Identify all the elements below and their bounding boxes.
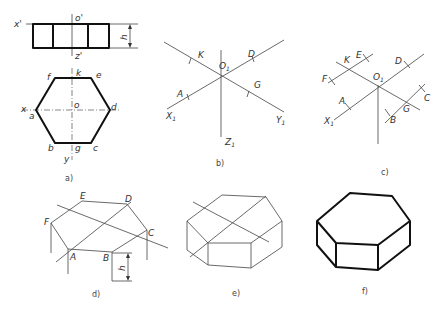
- label-X1: X1: [165, 111, 176, 122]
- label-o-prime: o': [75, 13, 83, 23]
- label-x: x: [20, 104, 27, 114]
- label-h: h: [117, 265, 127, 271]
- label-Y1: Y1: [276, 115, 285, 126]
- label-G: G: [403, 104, 410, 114]
- prism-top-face: [187, 195, 282, 243]
- label-f: f: [47, 72, 52, 82]
- label-F: F: [44, 217, 50, 227]
- label-o: o: [74, 100, 80, 110]
- label-g: g: [75, 143, 81, 153]
- label-D: D: [125, 194, 132, 204]
- label-b: b: [48, 143, 54, 153]
- panel-f: f): [317, 193, 410, 296]
- label-D: D: [395, 56, 402, 66]
- label-X1: X1: [323, 116, 334, 127]
- caption-b: b): [216, 159, 224, 168]
- label-G: G: [254, 80, 261, 90]
- label-d: d: [111, 102, 117, 112]
- label-B: B: [390, 115, 396, 125]
- label-A: A: [176, 89, 183, 99]
- label-O1: O1: [373, 72, 384, 83]
- caption-e: e): [232, 289, 240, 298]
- label-x-prime: x': [13, 19, 22, 29]
- label-F: F: [322, 74, 328, 84]
- panel-b: K D O1 A G X1 Y1 Z1 b): [164, 40, 285, 168]
- label-O1: O1: [219, 61, 230, 72]
- label-D: D: [248, 49, 255, 59]
- label-c: c: [93, 143, 98, 153]
- prism-outline: [317, 221, 410, 270]
- front-view-rect: [33, 24, 109, 48]
- label-a: a: [29, 111, 35, 121]
- axis-y1: [164, 42, 284, 112]
- caption-a: a): [65, 174, 73, 183]
- label-z-prime: z': [74, 51, 82, 61]
- label-A: A: [338, 96, 345, 106]
- label-C: C: [424, 93, 431, 103]
- label-h: h: [119, 34, 129, 40]
- label-K: K: [198, 50, 205, 60]
- label-A: A: [69, 252, 76, 262]
- caption-c: c): [381, 168, 389, 177]
- panel-d: E D F C A B h d): [44, 191, 168, 299]
- label-B: B: [103, 253, 109, 263]
- label-e: e: [96, 70, 102, 80]
- caption-d: d): [92, 290, 100, 299]
- label-E: E: [356, 50, 362, 60]
- panel-e: e): [187, 195, 282, 298]
- prism-top-face: [317, 193, 410, 245]
- label-k: k: [76, 68, 82, 78]
- panel-a: x' o' z' h f k e x a o d b g c y a): [13, 13, 138, 183]
- label-K: K: [344, 55, 351, 65]
- caption-f: f): [362, 287, 368, 296]
- label-C: C: [148, 228, 155, 238]
- axis-x1: [167, 40, 284, 109]
- top-view-hexagon: [36, 78, 110, 143]
- label-y: y: [63, 154, 70, 164]
- panel-c: K E D F O1 A G C B X1 c): [322, 50, 431, 177]
- label-Z1: Z1: [224, 137, 235, 148]
- label-E: E: [80, 191, 86, 201]
- hexagonal-prism-diagram: x' o' z' h f k e x a o d b g c y a) K D …: [0, 0, 443, 311]
